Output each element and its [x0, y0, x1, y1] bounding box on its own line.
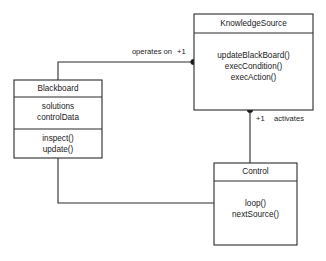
class-operation-knowledgesource-1: execCondition(): [225, 62, 283, 71]
class-operation-blackboard-0: inspect(): [42, 134, 74, 143]
association-knowledgesource-control: +1 activates: [247, 107, 304, 163]
class-box-knowledgesource[interactable]: KnowledgeSource updateBlackBoard() execC…: [194, 14, 313, 110]
association-blackboard-control: [58, 158, 214, 203]
class-name-blackboard: Blackboard: [38, 84, 79, 93]
association-blackboard-knowledgesource: operates on +1: [58, 47, 196, 80]
association-multiplicity-activates: +1: [256, 114, 265, 123]
class-box-blackboard[interactable]: Blackboard solutions controlData inspect…: [14, 80, 102, 158]
class-name-knowledgesource: KnowledgeSource: [220, 19, 287, 28]
uml-class-diagram: operates on +1 +1 activates KnowledgeSou…: [0, 0, 326, 261]
diagram-canvas: operates on +1 +1 activates KnowledgeSou…: [0, 0, 326, 261]
class-name-control: Control: [242, 167, 269, 176]
association-label-operates-on: operates on: [132, 47, 172, 56]
association-label-activates: activates: [274, 114, 304, 123]
class-operation-control-0: loop(): [245, 199, 266, 208]
association-line-blackboard-control: [58, 158, 214, 203]
class-attribute-blackboard-0: solutions: [42, 102, 74, 111]
association-multiplicity-operates-on: +1: [177, 47, 186, 56]
class-operation-control-1: nextSource(): [232, 210, 279, 219]
class-attribute-blackboard-1: controlData: [37, 113, 79, 122]
class-operation-knowledgesource-0: updateBlackBoard(): [217, 51, 290, 60]
association-line-operates-on: [58, 62, 194, 80]
class-operation-blackboard-1: update(): [43, 145, 74, 154]
class-box-control[interactable]: Control loop() nextSource(): [214, 163, 297, 245]
class-operation-knowledgesource-2: execAction(): [231, 73, 277, 82]
